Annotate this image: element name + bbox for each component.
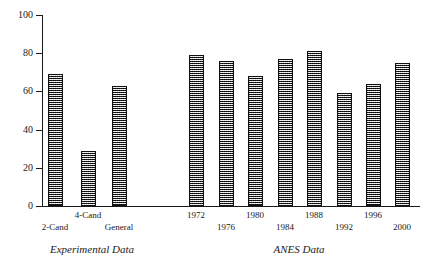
bar	[307, 51, 322, 206]
x-axis-tick-label: General	[105, 222, 133, 232]
bar	[189, 55, 204, 206]
x-axis-tick-label: 1984	[276, 222, 294, 232]
x-axis-tick-label: 1996	[364, 210, 382, 220]
x-axis-tick-label: 1988	[305, 210, 323, 220]
x-axis-tick-label: 1976	[217, 222, 235, 232]
bar	[219, 61, 234, 206]
x-axis-tick-label: 4-Cand	[75, 210, 102, 220]
bar	[81, 151, 96, 206]
plot-area: 020406080100 2-Cand4-CandGeneral19721976…	[0, 0, 431, 269]
bar	[278, 59, 293, 206]
x-axis-tick-label: 2000	[393, 222, 411, 232]
x-axis-tick-label: 1992	[335, 222, 353, 232]
y-axis-tick	[36, 206, 42, 207]
panel-caption: ANES Data	[273, 243, 324, 256]
panel-caption: Experimental Data	[50, 243, 134, 256]
bar	[337, 93, 352, 206]
bar	[366, 84, 381, 206]
x-axis-baseline	[42, 206, 420, 207]
bar	[112, 86, 127, 206]
bar	[395, 63, 410, 206]
bars-layer	[0, 0, 431, 206]
x-axis-tick-label: 1972	[187, 210, 205, 220]
bar-chart-figure: 020406080100 2-Cand4-CandGeneral19721976…	[0, 0, 431, 269]
bar	[248, 76, 263, 206]
bar	[48, 74, 63, 206]
x-axis-tick-label: 2-Cand	[42, 222, 69, 232]
x-axis-tick-label: 1980	[246, 210, 264, 220]
